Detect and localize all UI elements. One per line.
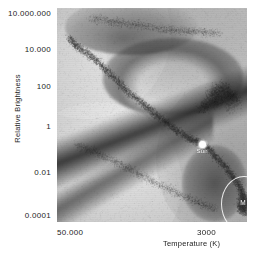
y-tick-label: 10.000.000 — [0, 9, 51, 18]
m-dwarf-region-label: M — [240, 199, 245, 206]
y-tick-label: 0.01 — [0, 168, 51, 177]
y-tick-label: 1 — [0, 122, 51, 131]
star-scatter-canvas — [57, 8, 247, 222]
y-tick-label: 10.000 — [0, 45, 51, 54]
density-wash-lower-left — [57, 102, 182, 222]
x-axis-title: Temperature (K) — [163, 239, 220, 248]
star-band-giants — [103, 38, 244, 115]
hr-diagram-figure: Sun M 10.000.000 10.000 100 1 0.01 0.000… — [0, 0, 262, 263]
x-tick-label: 3000 — [197, 228, 216, 237]
sun-label: Sun — [196, 148, 207, 154]
star-band-supergiants — [65, 8, 198, 55]
star-band-main-sequence — [57, 21, 247, 222]
plot-area: Sun M — [57, 8, 247, 222]
scan-texture-overlay — [57, 8, 247, 222]
density-wash-main-sequence — [57, 8, 247, 222]
density-wash-giants — [106, 8, 247, 102]
y-axis-title: Relative Brightness — [13, 59, 22, 159]
x-tick-label: 50.000 — [57, 228, 83, 237]
y-tick-label: 0.0001 — [0, 211, 51, 220]
density-wash-upper-left — [57, 8, 171, 119]
sun-marker-icon — [199, 141, 206, 148]
star-band-white-dwarfs — [57, 94, 213, 222]
y-tick-label: 100 — [0, 82, 51, 91]
